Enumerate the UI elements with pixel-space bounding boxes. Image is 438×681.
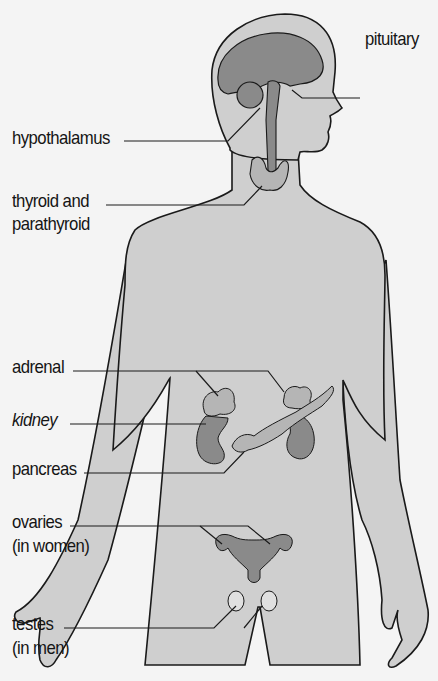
label-ovaries-line1: ovaries [12, 511, 62, 533]
label-testes-line1: testes [12, 613, 53, 635]
label-adrenal: adrenal [12, 356, 64, 378]
label-testes-line2: (in men) [12, 637, 69, 659]
cerebellum [237, 82, 263, 108]
label-ovaries-line2: (in women) [12, 535, 89, 557]
testis-right [261, 591, 277, 611]
label-kidney: kidney [12, 409, 57, 431]
label-thyroid-line1: thyroid and [12, 190, 89, 212]
label-pancreas: pancreas [12, 458, 77, 480]
label-pituitary: pituitary [365, 28, 419, 50]
label-thyroid-line2: parathyroid [12, 213, 90, 235]
label-hypothalamus: hypothalamus [12, 127, 110, 149]
testis-left [228, 591, 244, 611]
torso [113, 150, 385, 665]
endocrine-figure [0, 0, 438, 681]
